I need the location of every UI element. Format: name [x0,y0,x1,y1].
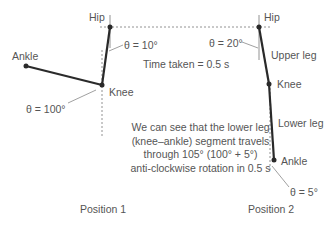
ankle2-label: Ankle [281,156,307,167]
angle10-label: θ = 10° [124,40,158,51]
upper-leg-1 [102,27,110,85]
ankle1-joint [24,64,29,69]
angle20-label: θ = 20° [209,38,243,49]
time-taken-label: Time taken = 0.5 s [143,59,229,70]
hip1-joint [108,25,113,30]
angle20-leader [242,42,258,48]
lower-leg-label: Lower leg [278,118,324,129]
knee1-label: Knee [109,87,134,98]
hip1-label: Hip [89,12,105,23]
upper-leg-label: Upper leg [271,50,317,61]
knee2-joint [267,82,272,87]
position2-title: Position 2 [248,204,294,215]
upper-leg-2 [259,27,269,84]
explanation-text: We can see that the lower leg (knee–ankl… [118,121,283,175]
position1-title: Position 1 [80,204,126,215]
hip2-label: Hip [264,12,280,23]
angle100-label: θ = 100° [26,104,66,115]
hip2-joint [257,25,262,30]
angle10-leader [109,45,123,51]
lower-leg-1 [26,66,102,85]
knee2-label: Knee [277,79,302,90]
knee1-joint [100,83,105,88]
angle5-label: θ = 5° [290,187,318,198]
ankle1-label: Ankle [12,51,38,62]
angle100-leader [68,90,96,103]
